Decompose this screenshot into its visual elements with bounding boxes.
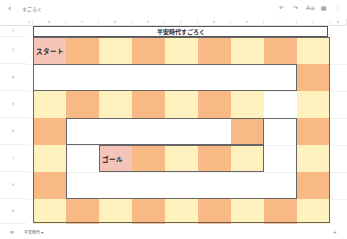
board-square[interactable] xyxy=(198,37,231,64)
board-square[interactable] xyxy=(33,172,66,199)
board-title[interactable]: 平安時代すごろく xyxy=(33,26,328,37)
board-square[interactable] xyxy=(33,199,66,224)
board-square[interactable] xyxy=(198,91,231,118)
board-square[interactable] xyxy=(132,145,165,172)
board-square[interactable] xyxy=(165,199,198,224)
sheet-tabs-bar: ≡ 平安時代 ▾ + xyxy=(0,226,347,239)
grid-icon[interactable]: ▦ xyxy=(320,4,327,12)
board-square[interactable] xyxy=(198,145,231,172)
board-square[interactable] xyxy=(264,37,297,64)
board-square[interactable] xyxy=(198,199,231,224)
row-header-5[interactable]: 5 xyxy=(0,91,26,118)
board-square[interactable] xyxy=(297,145,330,172)
document-title: すごろく xyxy=(22,5,42,12)
column-header-j[interactable]: J xyxy=(297,19,330,26)
goal-cell[interactable]: ゴール xyxy=(99,145,132,172)
column-header-e[interactable]: E xyxy=(132,19,165,26)
row-header-9[interactable]: 9 xyxy=(0,199,26,224)
column-header-f[interactable]: F xyxy=(165,19,198,26)
board-square[interactable] xyxy=(297,172,330,199)
row-header-4[interactable]: 4 xyxy=(0,64,26,91)
more-icon[interactable]: ⋮ xyxy=(334,4,341,12)
board-square[interactable] xyxy=(297,64,330,91)
board-square[interactable] xyxy=(231,37,264,64)
sheet-tab[interactable]: 平安時代 ▾ xyxy=(24,229,43,235)
board-square[interactable] xyxy=(99,199,132,224)
column-header-k[interactable]: K xyxy=(330,19,347,26)
column-header-c[interactable]: C xyxy=(66,19,99,26)
board-square[interactable] xyxy=(231,91,264,118)
text-format-icon[interactable]: A≡ xyxy=(306,4,313,12)
board-square[interactable] xyxy=(264,199,297,224)
board-square[interactable] xyxy=(66,199,99,224)
board-square[interactable] xyxy=(66,37,99,64)
board-square[interactable] xyxy=(132,199,165,224)
toolbar-icons: ↶ ↷ A≡ ▦ ⋮ xyxy=(278,4,341,12)
row-header-2[interactable]: 2 xyxy=(0,26,26,37)
sheets-list-icon[interactable]: ≡ xyxy=(10,229,14,235)
undo-icon[interactable]: ↶ xyxy=(278,4,285,12)
column-header-g[interactable]: G xyxy=(198,19,231,26)
board-square[interactable] xyxy=(165,91,198,118)
goal-label: ゴール xyxy=(102,154,123,164)
board-square[interactable] xyxy=(66,91,99,118)
row-header-8[interactable]: 8 xyxy=(0,172,26,199)
column-header-d[interactable]: D xyxy=(99,19,132,26)
board-square[interactable] xyxy=(33,118,66,145)
board-square[interactable] xyxy=(165,37,198,64)
board-square[interactable] xyxy=(231,118,264,145)
board-square[interactable] xyxy=(33,145,66,172)
board-square[interactable] xyxy=(231,145,264,172)
board-square[interactable] xyxy=(165,145,198,172)
board-square[interactable] xyxy=(231,199,264,224)
board-square[interactable] xyxy=(132,91,165,118)
path-border xyxy=(33,64,297,91)
row-header-7[interactable]: 7 xyxy=(0,145,26,172)
board-square[interactable] xyxy=(33,91,66,118)
redo-icon[interactable]: ↷ xyxy=(292,4,299,12)
column-header-h[interactable]: H xyxy=(231,19,264,26)
board-square[interactable] xyxy=(297,118,330,145)
board-square[interactable] xyxy=(297,199,330,224)
start-cell[interactable]: スタート xyxy=(33,37,66,64)
column-headers: A B C D E F G H I J K xyxy=(0,19,347,26)
board-square[interactable] xyxy=(132,37,165,64)
start-label: スタート xyxy=(36,46,64,56)
column-header-b[interactable]: B xyxy=(33,19,66,26)
board-square[interactable] xyxy=(99,91,132,118)
board-square[interactable] xyxy=(99,37,132,64)
board-square[interactable] xyxy=(297,37,330,64)
board-square[interactable] xyxy=(297,91,330,118)
row-header-3[interactable]: 3 xyxy=(0,37,26,64)
column-header-i[interactable]: I xyxy=(264,19,297,26)
top-toolbar: ‹ すごろく ↶ ↷ A≡ ▦ ⋮ xyxy=(0,0,347,18)
column-header-a[interactable]: A xyxy=(26,19,33,26)
back-icon[interactable]: ‹ xyxy=(8,4,18,14)
row-header-6[interactable]: 6 xyxy=(0,118,26,145)
add-sheet-icon[interactable]: + xyxy=(333,229,337,235)
